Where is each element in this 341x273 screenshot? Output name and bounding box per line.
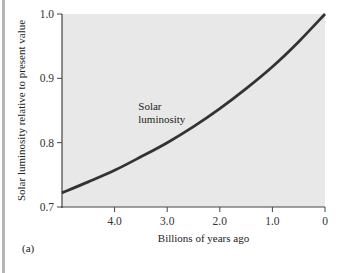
x-tick-label: 3.0 bbox=[160, 215, 175, 227]
y-tick-label: 0.7 bbox=[40, 201, 55, 213]
annotation-line: Solar bbox=[138, 100, 162, 112]
y-tick-label: 0.9 bbox=[40, 72, 55, 84]
annotation-line: luminosity bbox=[138, 113, 186, 125]
y-tick-label: 1.0 bbox=[40, 8, 55, 20]
y-tick-label: 0.8 bbox=[40, 137, 55, 149]
x-axis-label: Billions of years ago bbox=[158, 232, 250, 244]
x-tick-label: 0 bbox=[322, 215, 328, 227]
x-tick-label: 1.0 bbox=[265, 215, 280, 227]
x-tick-label: 2.0 bbox=[213, 215, 228, 227]
x-axis-ticks: 4.03.02.01.00 bbox=[107, 207, 328, 227]
y-axis-ticks: 0.70.80.91.0 bbox=[40, 8, 62, 213]
x-tick-label: 4.0 bbox=[107, 215, 122, 227]
plot-area bbox=[62, 14, 325, 207]
luminosity-chart: 0.70.80.91.0 4.03.02.01.00 Solarluminosi… bbox=[0, 0, 341, 273]
panel-label: (a) bbox=[22, 242, 35, 255]
y-axis-label: Solar luminosity relative to present val… bbox=[15, 20, 27, 201]
